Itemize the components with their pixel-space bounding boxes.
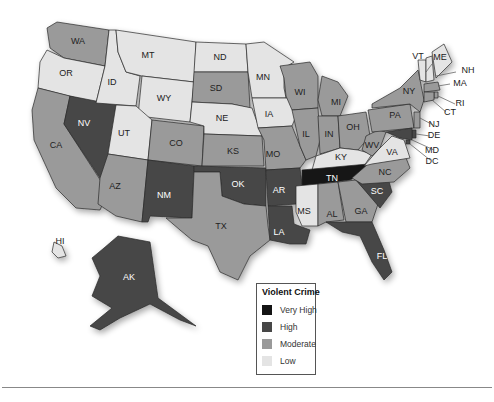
state-label-il: IL <box>302 129 310 139</box>
state-mi[interactable] <box>318 76 348 116</box>
state-label-az: AZ <box>109 181 121 191</box>
state-label-hi: HI <box>56 236 65 246</box>
state-label-mt: MT <box>142 50 155 60</box>
legend-item-high: High <box>262 318 310 335</box>
state-dc[interactable] <box>406 140 410 144</box>
state-ri[interactable] <box>434 92 438 98</box>
state-label-ky: KY <box>335 152 347 162</box>
state-ma[interactable] <box>424 82 440 92</box>
state-label-nd: ND <box>214 52 227 62</box>
state-label-nv: NV <box>78 118 91 128</box>
state-label-me: ME <box>433 52 447 62</box>
us-violent-crime-map: WAORCANVIDMTWYUTAZCONMNDSDNEKSOKTXMNIAMO… <box>0 0 494 402</box>
state-label-ct: CT <box>444 107 456 117</box>
state-label-co: CO <box>169 138 183 148</box>
state-label-nm: NM <box>157 190 171 200</box>
state-label-ar: AR <box>273 185 286 195</box>
legend-label: Moderate <box>280 339 316 349</box>
state-label-ca: CA <box>50 140 63 150</box>
state-label-sd: SD <box>210 83 223 93</box>
state-label-va: VA <box>386 147 397 157</box>
state-label-pa: PA <box>389 110 400 120</box>
state-label-ks: KS <box>227 146 239 156</box>
state-label-ia: IA <box>265 109 274 119</box>
state-label-ri: RI <box>456 98 465 108</box>
legend-item-moderate: Moderate <box>262 335 310 352</box>
state-label-al: AL <box>326 209 337 219</box>
state-label-ne: NE <box>216 113 229 123</box>
map-legend: Violent Crime Very High High Moderate Lo… <box>256 283 316 375</box>
state-label-ny: NY <box>403 86 416 96</box>
state-label-mi: MI <box>331 97 341 107</box>
legend-label: Very High <box>280 305 317 315</box>
state-label-in: IN <box>325 129 334 139</box>
state-label-tx: TX <box>215 221 227 231</box>
state-label-ak: AK <box>123 272 135 282</box>
legend-swatch <box>262 339 272 349</box>
state-label-ms: MS <box>297 206 311 216</box>
state-label-oh: OH <box>346 122 360 132</box>
state-de[interactable] <box>412 130 416 138</box>
state-label-mo: MO <box>266 149 281 159</box>
legend-item-very-high: Very High <box>262 301 310 318</box>
legend-swatch <box>262 305 272 315</box>
state-nj[interactable] <box>414 112 420 128</box>
state-label-ma: MA <box>453 78 467 88</box>
state-label-nj: NJ <box>429 119 440 129</box>
state-label-vt: VT <box>412 51 424 61</box>
bottom-divider <box>2 387 492 388</box>
legend-swatch <box>262 356 272 366</box>
legend-item-low: Low <box>262 352 310 369</box>
legend-label: High <box>280 322 297 332</box>
state-label-ok: OK <box>231 179 244 189</box>
state-label-fl: FL <box>377 251 388 261</box>
state-az[interactable] <box>98 154 148 222</box>
legend-label: Low <box>280 356 296 366</box>
state-label-mn: MN <box>256 72 270 82</box>
state-label-tn: TN <box>326 173 338 183</box>
state-label-wa: WA <box>71 36 85 46</box>
state-label-wi: WI <box>295 87 306 97</box>
state-label-id: ID <box>108 77 118 87</box>
state-label-or: OR <box>59 68 73 78</box>
state-label-de: DE <box>428 130 441 140</box>
state-label-nh: NH <box>462 65 475 75</box>
state-label-ut: UT <box>118 128 130 138</box>
state-label-wy: WY <box>157 93 172 103</box>
legend-swatch <box>262 322 272 332</box>
state-label-ga: GA <box>354 206 367 216</box>
state-label-wv: WV <box>365 140 380 150</box>
state-ms[interactable] <box>296 184 318 226</box>
state-label-sc: SC <box>371 186 384 196</box>
legend-title: Violent Crime <box>262 287 310 297</box>
state-ak[interactable] <box>90 236 196 330</box>
state-label-nc: NC <box>379 167 392 177</box>
state-label-la: LA <box>273 227 284 237</box>
